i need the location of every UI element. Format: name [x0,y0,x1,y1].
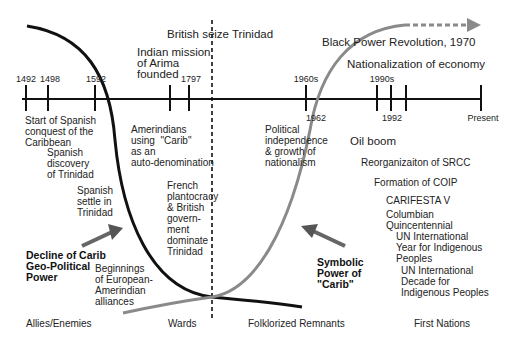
tick-label-1992: 1992 [382,113,402,123]
event-un-year: UN International Year for Indigenous Peo… [396,231,482,264]
tick-label-1492: 1492 [16,74,36,84]
black-power-label: Black Power Revolution, 1970 [322,36,475,49]
event-political-independence: Political independence & growth of natio… [265,124,328,168]
event-oil-boom: Oil boom [350,135,396,148]
tick-label-present: Present [467,113,498,123]
event-spanish-discovery: Spanish discovery of Trinidad [47,147,94,180]
event-columbian: Columbian Quincentennial [386,209,453,231]
tick-label-1592: 1592 [86,74,106,84]
symbolic-power-annotation: Symbolic Power of "Carib" [317,257,364,290]
event-french-plantocracy: French plantocracy & British govern- men… [167,180,218,257]
tick-label-1797: 1797 [181,74,201,84]
tick-label-1990s: 1990s [370,74,395,84]
event-start-conquest: Start of Spanish conquest of the Caribbe… [25,115,96,148]
phase-allies-enemies: Allies/Enemies [26,318,92,329]
nationalization-label: Nationalization of economy [347,58,485,71]
event-spanish-settle: Spanish settle in Trinidad [77,185,113,218]
british-seize-label: British seize Trinidad [167,28,273,41]
event-formation-coip: Formation of COIP [374,177,457,188]
event-carifesta: CARIFESTA V [386,195,450,206]
decline-arrow-icon [82,224,123,246]
event-un-decade: UN International Decade for Indigenous P… [401,265,489,298]
phase-first-nations: First Nations [414,318,470,329]
symbolic-arrow-icon [301,224,345,246]
tick-label-1498: 1498 [40,74,60,84]
event-amerindians-carib: Amerindians using "Carib" as an auto-den… [131,124,214,168]
phase-wards: Wards [168,318,197,329]
arrowhead-icon [467,18,481,32]
tick-label-1962: 1962 [306,113,326,123]
event-reorganization: Reorganizaiton of SRCC [361,157,471,168]
decline-annotation: Decline of Carib Geo-Political Power [26,250,106,283]
phase-folklorized-remnants: Folklorized Remnants [248,318,345,329]
tick-label-1960s: 1960s [294,74,319,84]
